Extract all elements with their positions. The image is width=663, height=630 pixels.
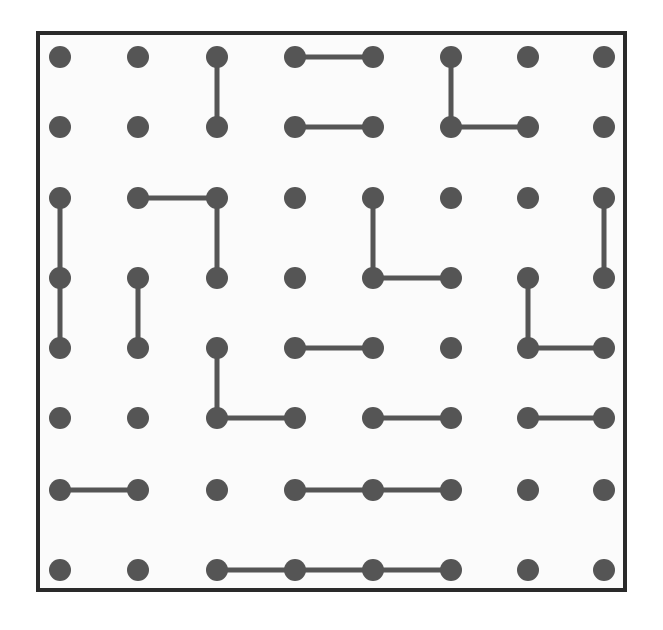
grid-dot[interactable] (593, 267, 615, 289)
grid-dot[interactable] (284, 337, 306, 359)
grid-dot[interactable] (440, 407, 462, 429)
grid-dot[interactable] (517, 407, 539, 429)
grid-dot[interactable] (517, 46, 539, 68)
grid-dot[interactable] (440, 267, 462, 289)
grid-dot[interactable] (362, 267, 384, 289)
grid-dot[interactable] (440, 46, 462, 68)
grid-dot[interactable] (593, 116, 615, 138)
grid-dot[interactable] (127, 267, 149, 289)
grid-dot[interactable] (49, 407, 71, 429)
grid-dot[interactable] (517, 479, 539, 501)
grid-dot[interactable] (517, 187, 539, 209)
grid-dot[interactable] (206, 46, 228, 68)
grid-dot[interactable] (49, 116, 71, 138)
grid-dot[interactable] (517, 337, 539, 359)
grid-dot[interactable] (284, 559, 306, 581)
grid-dot[interactable] (362, 46, 384, 68)
grid-dot[interactable] (362, 337, 384, 359)
grid-dot[interactable] (206, 479, 228, 501)
grid-dot[interactable] (284, 267, 306, 289)
grid-dot[interactable] (284, 407, 306, 429)
grid-dot[interactable] (49, 267, 71, 289)
grid-dot[interactable] (127, 559, 149, 581)
figure-canvas (0, 0, 663, 630)
grid-dot[interactable] (127, 116, 149, 138)
grid-dot[interactable] (593, 479, 615, 501)
grid-dot[interactable] (284, 187, 306, 209)
grid-dot[interactable] (49, 187, 71, 209)
grid-dot[interactable] (284, 46, 306, 68)
grid-dot[interactable] (593, 46, 615, 68)
grid-dot[interactable] (206, 267, 228, 289)
grid-dot[interactable] (593, 187, 615, 209)
grid-dot[interactable] (593, 559, 615, 581)
grid-dot[interactable] (284, 479, 306, 501)
grid-dot[interactable] (362, 479, 384, 501)
grid-dot[interactable] (440, 116, 462, 138)
grid-dot[interactable] (362, 116, 384, 138)
grid-dot[interactable] (49, 479, 71, 501)
grid-dot[interactable] (362, 407, 384, 429)
grid-dot[interactable] (206, 407, 228, 429)
grid-dot[interactable] (49, 559, 71, 581)
grid-dot[interactable] (440, 479, 462, 501)
grid-dot[interactable] (362, 559, 384, 581)
grid-dot[interactable] (206, 559, 228, 581)
grid-dot[interactable] (517, 267, 539, 289)
grid-dot[interactable] (49, 337, 71, 359)
grid-dot[interactable] (127, 187, 149, 209)
grid-dot[interactable] (127, 337, 149, 359)
grid-dot[interactable] (49, 46, 71, 68)
grid-dot[interactable] (440, 187, 462, 209)
grid-dot[interactable] (517, 116, 539, 138)
dot-grid-graph (0, 0, 663, 630)
grid-dot[interactable] (206, 187, 228, 209)
grid-dot[interactable] (362, 187, 384, 209)
grid-dot[interactable] (206, 116, 228, 138)
grid-dot[interactable] (127, 46, 149, 68)
grid-dot[interactable] (206, 337, 228, 359)
grid-dot[interactable] (440, 559, 462, 581)
grid-dot[interactable] (284, 116, 306, 138)
grid-dot[interactable] (127, 407, 149, 429)
grid-dot[interactable] (517, 559, 539, 581)
grid-dot[interactable] (127, 479, 149, 501)
grid-dot[interactable] (593, 407, 615, 429)
grid-dot[interactable] (440, 337, 462, 359)
grid-dot[interactable] (593, 337, 615, 359)
